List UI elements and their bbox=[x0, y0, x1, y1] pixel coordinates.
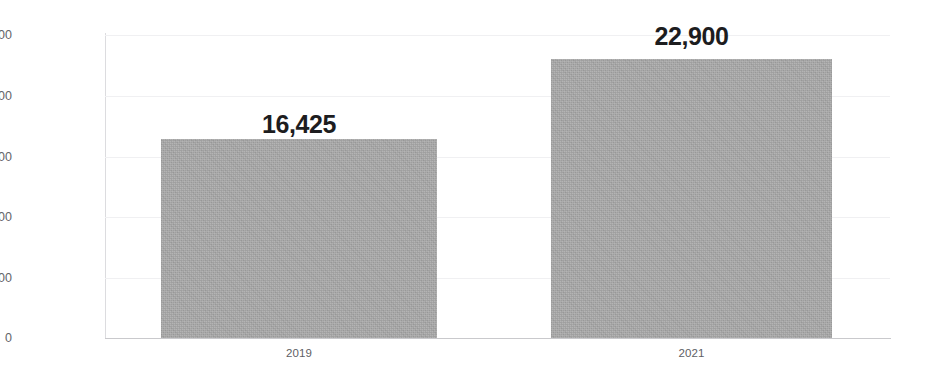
bar-2019[interactable] bbox=[161, 139, 437, 338]
x-tick-label-2019: 2019 bbox=[161, 347, 437, 359]
y-tick-label-10000: 10,000 bbox=[0, 210, 12, 224]
x-axis-line bbox=[105, 338, 891, 339]
plot-area bbox=[105, 35, 890, 338]
bar-chart: 25,000 20,000 15,000 10,000 5,000 0 16,4… bbox=[0, 0, 929, 385]
bar-2021[interactable] bbox=[551, 59, 832, 338]
y-tick-label-5000: 5,000 bbox=[0, 271, 12, 285]
y-tick-label-0: 0 bbox=[0, 331, 12, 345]
x-tick-label-2021: 2021 bbox=[551, 347, 832, 359]
y-tick-label-25000: 25,000 bbox=[0, 28, 12, 42]
y-tick-label-20000: 20,000 bbox=[0, 89, 12, 103]
y-tick-label-15000: 15,000 bbox=[0, 150, 12, 164]
bar-value-label-2019: 16,425 bbox=[161, 110, 437, 139]
bar-value-label-2021: 22,900 bbox=[551, 22, 832, 51]
